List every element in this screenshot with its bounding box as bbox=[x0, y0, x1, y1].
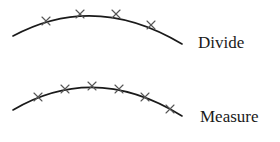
divide-panel: Divide bbox=[13, 10, 244, 52]
divide-measure-diagram: Divide Measure bbox=[0, 0, 280, 142]
x-mark-icon bbox=[112, 10, 120, 18]
measure-panel: Measure bbox=[13, 82, 259, 126]
divide-curve bbox=[13, 16, 182, 44]
measure-marks bbox=[34, 82, 174, 113]
measure-label: Measure bbox=[200, 107, 259, 126]
x-mark-icon bbox=[166, 105, 174, 113]
x-mark-icon bbox=[88, 82, 96, 90]
measure-curve bbox=[13, 87, 182, 116]
divide-label: Divide bbox=[198, 33, 244, 52]
